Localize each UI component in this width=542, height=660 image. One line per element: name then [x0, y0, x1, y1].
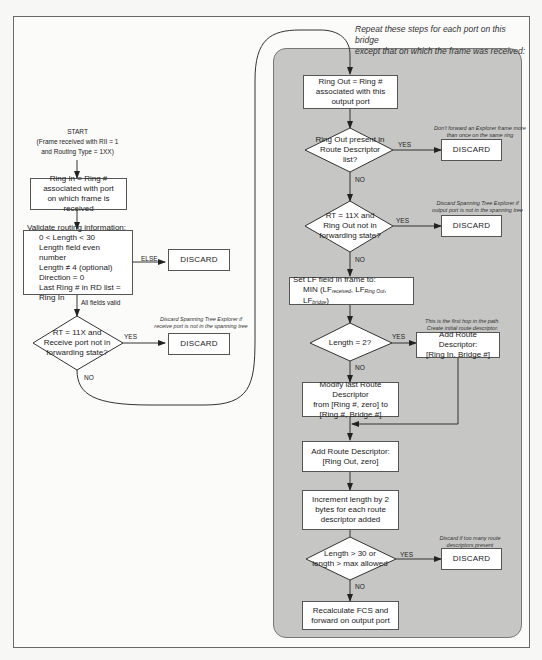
decision-line: list? [343, 155, 357, 165]
modify-line: [Ring #, Bridge #] [320, 410, 382, 420]
add-route-descriptor-initial-box: Add Route Descriptor: [Ring In, Bridge #… [416, 332, 500, 358]
modify-line: Modify last Route Descriptor [306, 380, 395, 400]
all-fields-valid-label: All fields valid [81, 299, 120, 307]
rd-line: [Ring In, Bridge #] [426, 350, 490, 360]
no-label: NO [355, 364, 365, 372]
note-line: than once on the same ring [430, 132, 530, 139]
modify-line: from [Ring #, zero] to [313, 400, 388, 410]
decision-line: Receive port not in [44, 338, 111, 348]
lf-prefix: MIN (LF [303, 285, 332, 294]
repeat-line-2: except that on which the frame was recei… [355, 46, 530, 57]
validate-item: Length field even number [27, 243, 129, 263]
no-label: NO [355, 176, 365, 184]
note-line: output port is not in the spanning tree [420, 207, 535, 214]
note-too-many: Discard if too many route descriptors pr… [430, 535, 510, 549]
note-spanning-receive: Discard Spanning Tree Explorer if receiv… [145, 316, 257, 330]
decision-line: RT = 11X and [53, 328, 102, 338]
start-condition-2: and Routing Type = 1XX) [30, 147, 125, 157]
decision-line: Length > 30 or [324, 549, 376, 559]
set-lf-line-1: Set LF field in frame to: [293, 275, 376, 285]
decision-line: Ring Out not in [323, 221, 376, 231]
set-lf-box: Set LF field in frame to: MIN (LFreceive… [289, 277, 414, 305]
decision-length-max: Length > 30 or length > max allowed [310, 549, 390, 569]
note-line: receive port is not in the spanning tree [145, 323, 257, 330]
decision-line: length > max allowed [312, 559, 387, 569]
start-label: START (Frame received with RII = 1 and R… [30, 127, 125, 157]
increment-length-box: Increment length by 2 bytes for each rou… [302, 490, 399, 530]
ring-in-line-1: Ring In = Ring # [50, 174, 108, 184]
discard-box-invalid: DISCARD [168, 249, 230, 271]
no-label: NO [84, 374, 94, 382]
note-line: Discard Spanning Tree Explorer if [145, 316, 257, 323]
else-label: ELSE [141, 255, 158, 263]
decision-line: Ring Out present in [316, 135, 385, 145]
discard-label: DISCARD [453, 554, 490, 564]
note-line: Don't forward an Explorer frame more [430, 125, 530, 132]
validate-item: Length ≠ 4 (optional) [27, 263, 112, 273]
no-label: NO [355, 583, 365, 591]
discard-box-receive-port: DISCARD [168, 333, 230, 355]
yes-label: YES [392, 333, 405, 341]
validate-item: Direction = 0 [27, 273, 84, 283]
decision-line: Route Descriptor [320, 145, 380, 155]
set-lf-line-2: MIN (LFreceived, LFRing Out, LFbridge) [293, 285, 410, 307]
recalc-line: Recalculate FCS and [313, 606, 389, 616]
discard-box-ring-out-state: DISCARD [441, 215, 502, 237]
note-explorer-once: Don't forward an Explorer frame more tha… [430, 125, 530, 139]
decision-line: RT = 11X and [326, 211, 375, 221]
decision-ring-out-present: Ring Out present in Route Descriptor lis… [312, 135, 388, 165]
discard-box-ring-present: DISCARD [441, 139, 502, 161]
note-line: Discard Spanning Tree Explorer if [420, 200, 535, 207]
lf-sub-bridge: bridge [312, 299, 326, 305]
ring-out-box: Ring Out = Ring # associated with this o… [303, 75, 398, 109]
rd-line: Add Route Descriptor: [311, 447, 390, 457]
lf-sub-received: received [332, 288, 351, 294]
repeat-line-1: Repeat these steps for each port on this… [355, 24, 530, 46]
decision-length-2: Length = 2? [315, 337, 385, 349]
ring-in-box: Ring In = Ring # associated with port on… [30, 178, 127, 210]
discard-label: DISCARD [453, 145, 490, 155]
decision-rt-ring-out: RT = 11X and Ring Out not in forwarding … [312, 211, 388, 241]
yes-label: YES [398, 141, 411, 149]
ring-out-line: output port [331, 97, 369, 107]
lf-suffix: ) [326, 296, 329, 305]
discard-box-too-many: DISCARD [441, 548, 502, 570]
increment-line: Increment length by 2 [312, 495, 389, 505]
recalculate-fcs-box: Recalculate FCS and forward on output po… [302, 601, 399, 630]
lf-sub-ring-out: Ring Out [365, 288, 385, 294]
start-condition-1: (Frame received with RII = 1 [30, 137, 125, 147]
rd-line: Add Route Descriptor: [420, 330, 496, 350]
decision-line: forwarding state? [319, 231, 380, 241]
ring-out-line: associated with this [316, 87, 385, 97]
start-title: START [30, 127, 125, 137]
yes-label: YES [400, 551, 413, 559]
decision-rt-receive-port: RT = 11X and Receive port not in forward… [40, 328, 114, 358]
increment-line: bytes for each route [315, 505, 386, 515]
no-label: NO [355, 256, 365, 264]
rd-line: [Ring Out, zero] [322, 457, 378, 467]
discard-label: DISCARD [180, 255, 217, 265]
discard-label: DISCARD [453, 221, 490, 231]
note-line: This is the first hop in the path. [415, 318, 510, 325]
note-spanning-output: Discard Spanning Tree Explorer if output… [420, 200, 535, 214]
decision-line: Length = 2? [329, 338, 371, 348]
yes-label: YES [124, 333, 137, 341]
decision-line: forwarding state? [46, 348, 107, 358]
ring-out-line: Ring Out = Ring # [319, 77, 383, 87]
note-line: Discard if too many route [430, 535, 510, 542]
add-route-descriptor-box: Add Route Descriptor: [Ring Out, zero] [302, 441, 399, 472]
repeat-note: Repeat these steps for each port on this… [355, 24, 530, 57]
validate-routing-box: Validate routing information: 0 < Length… [23, 230, 133, 295]
ring-in-line-3: on which frame is received [34, 194, 123, 214]
recalc-line: forward on output port [311, 616, 389, 626]
validate-title: Validate routing information: [27, 223, 126, 233]
discard-label: DISCARD [180, 339, 217, 349]
validate-item: 0 < Length < 30 [27, 233, 95, 243]
ring-in-line-2: associated with port [43, 184, 114, 194]
modify-route-descriptor-box: Modify last Route Descriptor from [Ring … [302, 382, 399, 417]
increment-line: descriptor added [321, 515, 381, 525]
lf-sep: , LF [351, 285, 365, 294]
yes-label: YES [396, 217, 409, 225]
